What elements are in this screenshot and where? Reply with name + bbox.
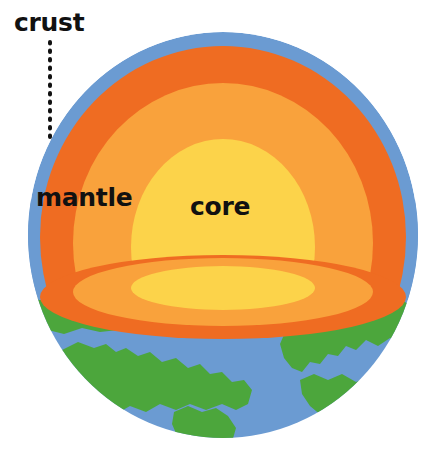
cut-ring-core bbox=[131, 266, 315, 310]
mantle-label: mantle bbox=[36, 185, 132, 210]
core-label: core bbox=[190, 194, 250, 219]
cut-face-rings bbox=[40, 255, 406, 339]
earth-structure-diagram: crust mantle core bbox=[0, 0, 438, 456]
crust-label: crust bbox=[14, 10, 84, 35]
earth-cutaway-illustration bbox=[0, 0, 438, 456]
